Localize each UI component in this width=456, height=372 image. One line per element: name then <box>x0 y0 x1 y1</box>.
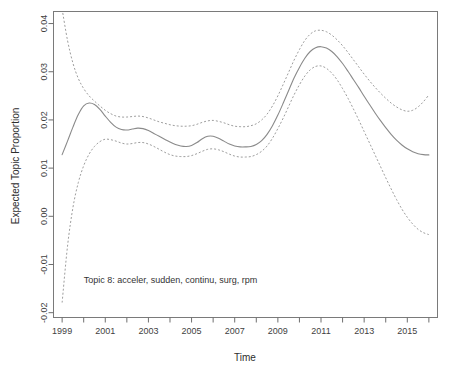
x-axis-tick-labels: 199920012003200520072009201120132015 <box>52 326 417 336</box>
series-mean <box>62 47 429 155</box>
y-axis-ticks <box>49 24 54 313</box>
x-tick-label-2009: 2009 <box>268 326 288 336</box>
data-series-layer <box>62 9 429 302</box>
x-tick-label-2011: 2011 <box>311 326 330 336</box>
y-tick-label-0.00: 0.00 <box>39 208 49 226</box>
x-tick-label-2005: 2005 <box>182 326 202 336</box>
y-tick-label-0.01: 0.01 <box>39 159 49 177</box>
series-upper-95ci <box>62 9 429 127</box>
y-tick-label--0.02: -0.02 <box>39 302 49 323</box>
x-axis-title: Time <box>234 352 256 363</box>
x-tick-label-2007: 2007 <box>225 326 245 336</box>
series-lower-95ci <box>62 66 429 303</box>
y-tick-label-0.03: 0.03 <box>39 63 49 81</box>
topic-annotation-0: Topic 8: acceler, sudden, continu, surg,… <box>84 275 258 285</box>
chart-annotation-layer: Topic 8: acceler, sudden, continu, surg,… <box>84 275 258 285</box>
series-clip-group <box>62 9 429 302</box>
y-tick-label--0.01: -0.01 <box>39 254 49 275</box>
y-axis-tick-labels: 0.040.030.020.010.00-0.01-0.02 <box>39 15 49 323</box>
y-tick-label-0.04: 0.04 <box>39 15 49 33</box>
topic-proportion-plot: 199920012003200520072009201120132015 0.0… <box>0 0 456 372</box>
x-tick-label-2001: 2001 <box>95 326 115 336</box>
x-axis-ticks <box>62 318 429 323</box>
x-tick-label-2015: 2015 <box>397 326 417 336</box>
x-tick-label-1999: 1999 <box>52 326 72 336</box>
y-tick-label-0.02: 0.02 <box>39 111 49 129</box>
y-axis-title: Expected Topic Proportion <box>10 108 21 225</box>
x-tick-label-2003: 2003 <box>138 326 158 336</box>
chart-figure: 199920012003200520072009201120132015 0.0… <box>0 0 456 372</box>
x-tick-label-2013: 2013 <box>354 326 374 336</box>
